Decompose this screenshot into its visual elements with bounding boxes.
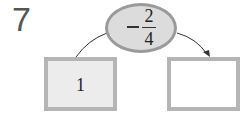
fraction-denominator: 4 [142,29,156,49]
fraction-bar [142,27,156,28]
outgoing-curve [177,33,207,54]
input-box: 1 [44,57,117,111]
arrowhead-icon [203,50,210,57]
answer-box[interactable] [167,57,240,111]
fraction-numerator: 2 [142,6,156,26]
input-value: 1 [48,75,113,96]
minus-sign [127,26,139,28]
incoming-curve [76,33,107,57]
operator-fraction: 2 4 [127,6,167,50]
